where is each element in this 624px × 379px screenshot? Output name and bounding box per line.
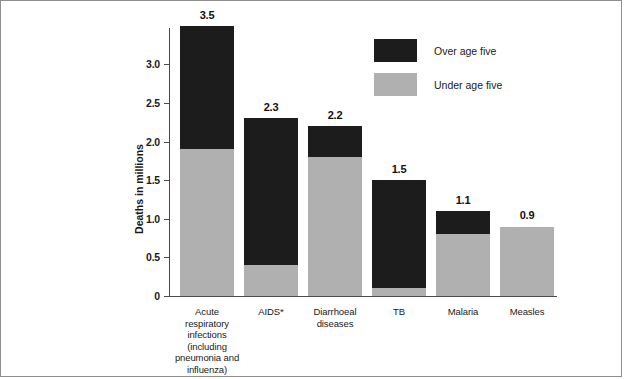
bar-segment-over-age-five [436,211,490,234]
legend-swatch-under-age-five [374,73,417,96]
x-category-label-line: influenza) [168,364,246,376]
y-tick-mark [164,219,169,220]
y-axis-title: Deaths in millions [133,144,145,234]
legend-label-over-age-five: Over age five [434,45,496,57]
bar-segment-under-age-five [180,149,234,296]
y-tick-label: 2.0 [146,136,160,148]
y-tick-label: 1.0 [146,213,160,225]
bar-segment-over-age-five [180,26,234,150]
x-category-label: Measles [488,306,566,318]
x-category-label-line: pneumonia and [168,352,246,364]
legend-item-under-age-five: Under age five [374,73,564,96]
bar-value-label: 1.1 [436,194,490,206]
bar-value-label: 1.5 [372,163,426,175]
legend-label-under-age-five: Under age five [434,79,502,91]
bar-2 [244,118,298,296]
bar-value-label: 2.3 [244,101,298,113]
x-category-label-line: respiratory [168,318,246,330]
bar-segment-over-age-five [308,126,362,157]
y-tick-label: 2.5 [146,97,160,109]
y-tick-mark [164,142,169,143]
chart-figure: Deaths in millions 00.51.01.52.02.53.0 3… [0,0,622,377]
x-category-label-line: diseases [296,318,374,330]
y-axis-line [169,28,170,296]
legend-item-over-age-five: Over age five [374,39,564,62]
bar-4 [372,180,426,296]
bar-3 [308,126,362,296]
y-tick-mark [164,257,169,258]
bar-6 [500,227,554,297]
bar-value-label: 2.2 [308,109,362,121]
bar-segment-under-age-five [372,288,426,296]
bar-value-label: 3.5 [180,9,234,21]
bar-segment-over-age-five [244,118,298,265]
bar-segment-under-age-five [244,265,298,296]
y-tick-label: 3.0 [146,58,160,70]
y-tick-mark [164,103,169,104]
x-category-label-line: Measles [488,306,566,318]
bar-segment-under-age-five [436,234,490,296]
legend-swatch-over-age-five [374,39,417,62]
x-category-label-line: infections [168,329,246,341]
y-tick-label: 0 [154,290,160,302]
bar-1 [180,26,234,296]
x-category-label-line: (including [168,341,246,353]
y-tick-label: 1.5 [146,174,160,186]
y-tick-mark [164,64,169,65]
legend: Over age five Under age five [374,39,564,107]
bar-segment-under-age-five [308,157,362,296]
bar-value-label: 0.9 [500,209,554,221]
bar-segment-under-age-five [500,227,554,297]
y-tick-mark [164,296,169,297]
y-tick-label: 0.5 [146,251,160,263]
y-tick-mark [164,180,169,181]
bar-5 [436,211,490,296]
bar-segment-over-age-five [372,180,426,288]
